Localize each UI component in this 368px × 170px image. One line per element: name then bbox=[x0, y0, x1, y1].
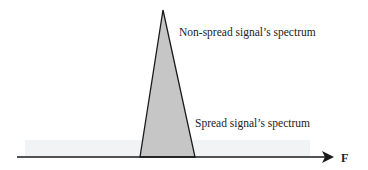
spread-label: Spread signal’s spectrum bbox=[195, 117, 310, 129]
frequency-axis-label: F bbox=[341, 151, 348, 166]
non-spread-label: Non-spread signal’s spectrum bbox=[179, 26, 316, 38]
